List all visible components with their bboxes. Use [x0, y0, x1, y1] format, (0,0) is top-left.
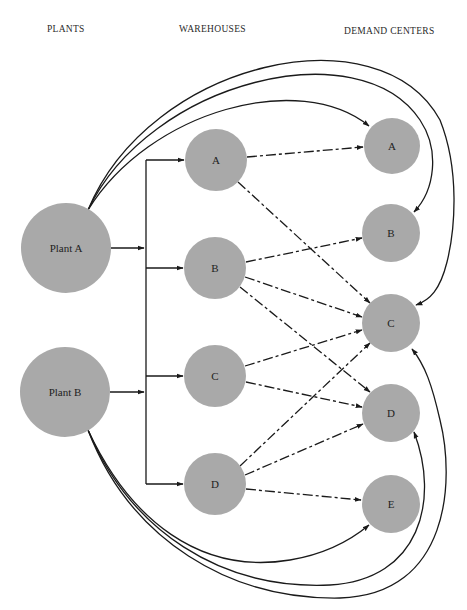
warehouse-nodes: A B C D	[184, 129, 247, 515]
node-demand-e[interactable]: E	[362, 475, 420, 533]
link-whB-dcD	[240, 287, 370, 392]
node-demand-c[interactable]: C	[362, 294, 420, 352]
link-whB-dcC	[245, 277, 362, 317]
node-label: B	[211, 262, 218, 274]
node-warehouse-c[interactable]: C	[184, 345, 246, 407]
link-whD-dcE	[246, 489, 361, 500]
node-label: A	[212, 154, 220, 166]
node-label: Plant A	[50, 242, 83, 254]
plant-warehouse-bus	[110, 160, 184, 484]
distribution-network-diagram: Plant A Plant B A B C D A	[0, 0, 467, 610]
node-label: E	[388, 498, 395, 510]
node-warehouse-b[interactable]: B	[184, 237, 246, 299]
node-label: Plant B	[49, 386, 82, 398]
node-plant-a[interactable]: Plant A	[21, 203, 111, 293]
link-whA-dcC	[238, 182, 370, 303]
link-whA-dcA	[247, 147, 363, 157]
link-whD-dcD	[245, 424, 363, 475]
node-label: C	[211, 370, 218, 382]
warehouse-demand-links	[238, 147, 370, 500]
node-demand-a[interactable]: A	[364, 118, 420, 174]
node-warehouse-a[interactable]: A	[185, 129, 247, 191]
node-demand-b[interactable]: B	[362, 204, 420, 262]
link-whC-dcD	[246, 382, 362, 407]
link-whC-dcC	[245, 330, 362, 366]
node-warehouse-d[interactable]: D	[184, 453, 246, 515]
link-whB-dcB	[246, 238, 362, 262]
node-plant-b[interactable]: Plant B	[20, 347, 110, 437]
node-label: D	[387, 407, 395, 419]
node-label: A	[388, 140, 396, 152]
node-demand-d[interactable]: D	[362, 384, 420, 442]
node-label: C	[387, 317, 394, 329]
node-label: B	[387, 227, 394, 239]
plant-nodes: Plant A Plant B	[20, 203, 111, 437]
node-label: D	[211, 478, 219, 490]
demand-center-nodes: A B C D E	[362, 118, 420, 533]
